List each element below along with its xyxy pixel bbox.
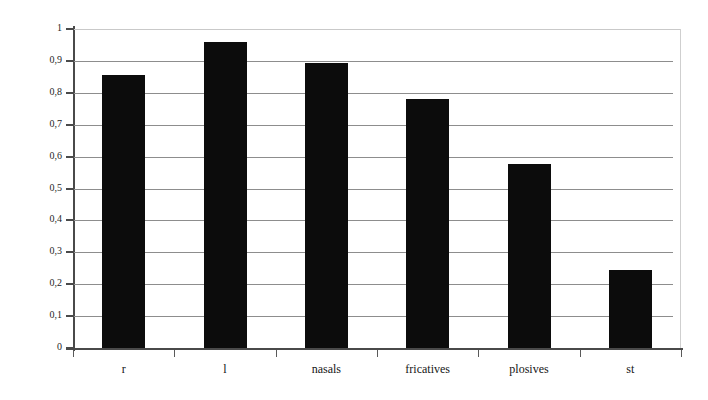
- y-tick-mark: [66, 283, 74, 285]
- gridline: [73, 157, 673, 158]
- bar: [609, 270, 652, 348]
- x-axis-category-label: st: [580, 362, 681, 377]
- gridline: [73, 316, 673, 317]
- y-tick-mark: [66, 92, 74, 94]
- y-tick-label: 0,6: [36, 151, 62, 161]
- y-tick-label: 0,8: [36, 87, 62, 97]
- gridline: [73, 220, 673, 221]
- x-axis-line: [66, 348, 683, 350]
- plot-area: [73, 29, 681, 348]
- bar-chart: mean relative frequency 00,10,20,30,40,5…: [0, 0, 708, 400]
- gridline: [73, 61, 673, 62]
- x-tick-mark: [73, 350, 74, 357]
- y-tick-label: 0,5: [36, 183, 62, 193]
- y-tick-mark: [66, 315, 74, 317]
- gridline: [73, 284, 673, 285]
- bar: [305, 63, 348, 349]
- y-tick-mark: [66, 347, 74, 349]
- x-axis-category-label: nasals: [276, 362, 377, 377]
- x-tick-mark: [276, 350, 277, 357]
- plot-frame-top: [73, 29, 681, 30]
- bar: [102, 75, 145, 348]
- gridline: [73, 93, 673, 94]
- gridline: [73, 189, 673, 190]
- y-tick-mark: [66, 124, 74, 126]
- y-tick-mark: [66, 251, 74, 253]
- y-tick-label: 0,4: [36, 214, 62, 224]
- y-tick-label: 0,1: [36, 310, 62, 320]
- x-axis-category-label: r: [73, 362, 174, 377]
- y-tick-label: 1: [36, 23, 62, 33]
- x-tick-mark: [478, 350, 479, 357]
- x-tick-mark: [377, 350, 378, 357]
- x-tick-mark: [681, 350, 682, 357]
- y-tick-mark: [66, 188, 74, 190]
- gridline: [73, 125, 673, 126]
- y-tick-mark: [66, 60, 74, 62]
- x-tick-mark: [580, 350, 581, 357]
- x-axis-category-label: fricatives: [377, 362, 478, 377]
- bar: [508, 164, 551, 348]
- x-tick-mark: [174, 350, 175, 357]
- bar: [204, 42, 247, 348]
- plot-frame-right: [680, 29, 681, 348]
- y-tick-label: 0,9: [36, 55, 62, 65]
- bar: [406, 99, 449, 348]
- y-tick-label: 0: [36, 342, 62, 352]
- y-tick-label: 0,2: [36, 278, 62, 288]
- y-tick-mark: [66, 156, 74, 158]
- y-tick-label: 0,3: [36, 246, 62, 256]
- x-axis-category-label: plosives: [478, 362, 579, 377]
- y-tick-mark: [66, 28, 74, 30]
- gridline: [73, 252, 673, 253]
- y-tick-mark: [66, 219, 74, 221]
- y-tick-label: 0,7: [36, 119, 62, 129]
- x-axis-category-label: l: [174, 362, 275, 377]
